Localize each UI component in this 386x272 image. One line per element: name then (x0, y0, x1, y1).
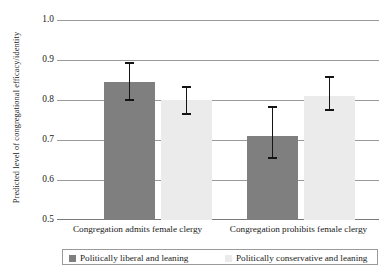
y-tick-1-0: 1.0 (8, 15, 54, 24)
errorbar-cap-top-liberal-prohibits (268, 106, 277, 108)
bar-liberal-admits (104, 82, 155, 220)
errorbar-conservative-prohibits (329, 76, 331, 110)
errorbar-conservative-admits (186, 86, 188, 114)
errorbar-cap-bottom-liberal-prohibits (268, 157, 277, 159)
legend-swatch-conservative-icon (225, 255, 232, 262)
chart-legend: Politically liberal and leaning Politica… (62, 249, 378, 265)
legend-swatch-liberal-icon (69, 255, 76, 262)
errorbar-cap-bottom-conservative-admits (182, 113, 191, 115)
y-axis-tick-labels: 1.0 0.9 0.8 0.7 0.6 0.5 (0, 20, 54, 220)
plot-area (57, 20, 379, 220)
gridline-1-0 (57, 20, 379, 21)
y-tick-0-6: 0.6 (8, 175, 54, 184)
legend-label-conservative: Politically conservative and leaning (236, 253, 367, 263)
bar-conservative-admits (161, 100, 212, 220)
x-axis-category-labels: Congregation admits female clergy Congre… (57, 224, 379, 240)
legend-item-liberal: Politically liberal and leaning (69, 252, 188, 264)
bar-conservative-prohibits (304, 96, 355, 220)
y-tick-0-5: 0.5 (8, 215, 54, 224)
legend-label-liberal: Politically liberal and leaning (80, 253, 188, 263)
errorbar-cap-bottom-conservative-prohibits (325, 109, 334, 111)
category-label-admits: Congregation admits female clergy (57, 224, 218, 234)
errorbar-cap-top-conservative-prohibits (325, 76, 334, 78)
errorbar-liberal-prohibits (272, 106, 274, 158)
y-tick-0-9: 0.9 (8, 55, 54, 64)
errorbar-liberal-admits (129, 62, 131, 100)
category-label-prohibits: Congregation prohibits female clergy (218, 224, 379, 234)
errorbar-cap-top-liberal-admits (125, 62, 134, 64)
gridline-0-9 (57, 60, 379, 61)
errorbar-cap-top-conservative-admits (182, 86, 191, 88)
legend-item-conservative: Politically conservative and leaning (225, 252, 367, 264)
bar-chart: Predicted level of congregational effica… (0, 0, 386, 272)
y-tick-0-8: 0.8 (8, 95, 54, 104)
y-tick-0-7: 0.7 (8, 135, 54, 144)
errorbar-cap-bottom-liberal-admits (125, 99, 134, 101)
